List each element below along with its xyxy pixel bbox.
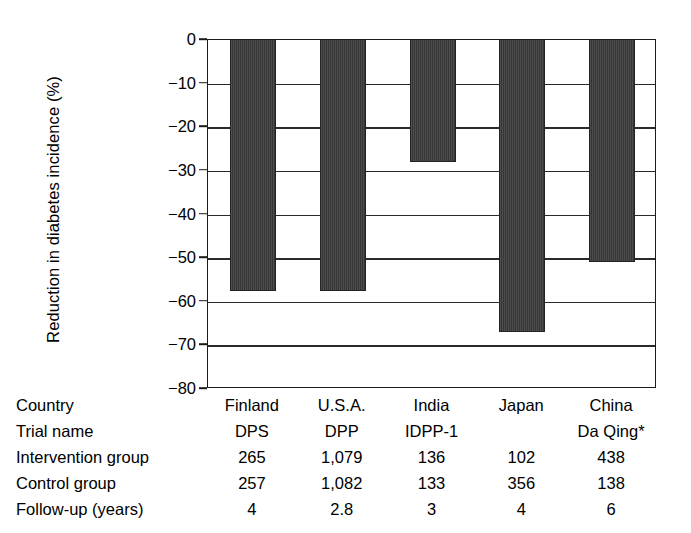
- table-row: Intervention group2651,079136102438: [0, 444, 691, 470]
- table-cell: 4: [247, 496, 256, 522]
- table-row: Trial nameDPSDPPIDPP-1Da Qing*: [0, 418, 691, 444]
- bar-finland: [230, 40, 276, 291]
- table-cell: 4: [517, 496, 526, 522]
- table-cell: 133: [418, 470, 446, 496]
- figure-diabetes-prevention-trials: Reduction in diabetes incidence (%) 0−10…: [0, 0, 691, 533]
- table-cell: 1,079: [321, 444, 362, 470]
- y-tick-mark: [199, 344, 207, 346]
- row-label: Control group: [16, 470, 116, 496]
- plot-frame: [207, 39, 656, 388]
- table-cell: 438: [597, 444, 625, 470]
- y-tick-mark: [199, 169, 207, 171]
- bar-japan: [499, 40, 545, 332]
- y-tick-label: 0: [148, 30, 196, 49]
- table-cell: Da Qing*: [578, 418, 645, 444]
- y-tick-mark: [199, 387, 207, 389]
- table-row: Follow-up (years)42.8346: [0, 496, 691, 522]
- table-cell: 102: [508, 444, 536, 470]
- y-tick-label: −50: [148, 248, 196, 267]
- table-cell: 1,082: [321, 470, 362, 496]
- y-tick-mark: [199, 213, 207, 215]
- table-cell: India: [414, 392, 450, 418]
- y-tick-mark: [199, 256, 207, 258]
- bar-series: [208, 40, 655, 387]
- bar-u-s-a: [320, 40, 366, 291]
- y-tick-label: −70: [148, 335, 196, 354]
- table-cell: 138: [597, 470, 625, 496]
- table-cell: 3: [427, 496, 436, 522]
- y-tick-mark: [199, 38, 207, 40]
- table-cell: U.S.A.: [318, 392, 366, 418]
- row-label: Intervention group: [16, 444, 149, 470]
- y-tick-label: −40: [148, 204, 196, 223]
- bar-india: [410, 40, 456, 162]
- y-tick-mark: [199, 125, 207, 127]
- y-axis-tick-labels: 0−10−20−30−40−50−60−70−80: [148, 39, 196, 388]
- table-cell: 356: [508, 470, 536, 496]
- bar-china: [589, 40, 635, 262]
- table-cell: 136: [418, 444, 446, 470]
- row-label: Trial name: [16, 418, 93, 444]
- table-row: Control group2571,082133356138: [0, 470, 691, 496]
- data-table: CountryFinlandU.S.A.IndiaJapanChinaTrial…: [0, 392, 691, 533]
- y-tick-label: −60: [148, 291, 196, 310]
- bar-chart: Reduction in diabetes incidence (%) 0−10…: [0, 0, 691, 392]
- table-cell: 6: [607, 496, 616, 522]
- table-cell: 265: [238, 444, 266, 470]
- y-tick-label: −20: [148, 117, 196, 136]
- y-tick-label: −10: [148, 73, 196, 92]
- y-tick-mark: [199, 300, 207, 302]
- table-cell: DPP: [325, 418, 359, 444]
- table-cell: Japan: [499, 392, 544, 418]
- table-cell: IDPP-1: [405, 418, 458, 444]
- table-cell: China: [590, 392, 633, 418]
- y-tick-label: −30: [148, 160, 196, 179]
- table-row: CountryFinlandU.S.A.IndiaJapanChina: [0, 392, 691, 418]
- row-label: Country: [16, 392, 74, 418]
- y-axis-title: Reduction in diabetes incidence (%): [44, 30, 63, 390]
- row-label: Follow-up (years): [16, 496, 143, 522]
- table-cell: Finland: [225, 392, 279, 418]
- table-cell: 2.8: [330, 496, 353, 522]
- table-cell: 257: [238, 470, 266, 496]
- y-tick-mark: [199, 82, 207, 84]
- table-cell: DPS: [235, 418, 269, 444]
